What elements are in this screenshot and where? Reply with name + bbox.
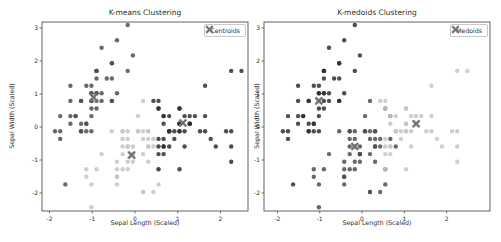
- svg-text:2: 2: [445, 215, 449, 222]
- axes-frame: [42, 22, 248, 211]
- kmedoids-y-axis-label: Sepal Width (Scaled): [253, 83, 260, 149]
- svg-text:2: 2: [219, 215, 223, 222]
- kmeans-plot: -2-1012-2-10123 K-means Clustering Sepal…: [0, 0, 250, 242]
- svg-text:2: 2: [34, 57, 38, 64]
- kmeans-legend: Centroids: [204, 24, 246, 37]
- svg-text:3: 3: [34, 24, 38, 31]
- kmedoids-plot-title: K-medoids Clustering: [337, 8, 416, 17]
- kmedoids-x-axis-label: Sepal Length (Scaled): [342, 219, 411, 226]
- svg-text:-2: -2: [254, 189, 260, 196]
- svg-text:-1: -1: [89, 215, 95, 222]
- kmedoids-plot: -2-1012-2-10123 K-medoids Clustering Sep…: [251, 0, 501, 242]
- svg-text:3: 3: [256, 24, 260, 31]
- svg-text:-2: -2: [32, 189, 38, 196]
- svg-text:-2: -2: [46, 215, 52, 222]
- svg-text:-1: -1: [32, 156, 38, 163]
- x-marker-icon: [205, 25, 214, 34]
- kmeans-plot-title: K-means Clustering: [109, 8, 182, 17]
- svg-text:-2: -2: [274, 215, 280, 222]
- kmeans-y-axis-label: Sepal Width (Scaled): [8, 83, 15, 149]
- svg-text:1: 1: [34, 90, 38, 97]
- svg-text:2: 2: [256, 57, 260, 64]
- x-marker-icon: [451, 25, 460, 34]
- clustering-comparison-figure: -2-1012-2-10123 K-means Clustering Sepal…: [0, 0, 501, 242]
- kmeans-legend-label: Centroids: [210, 27, 240, 34]
- kmedoids-legend: Medoids: [450, 24, 488, 37]
- kmeans-x-axis-label: Sepal Length (Scaled): [110, 219, 179, 226]
- svg-text:-1: -1: [317, 215, 323, 222]
- svg-text:-1: -1: [254, 156, 260, 163]
- svg-text:0: 0: [34, 123, 38, 130]
